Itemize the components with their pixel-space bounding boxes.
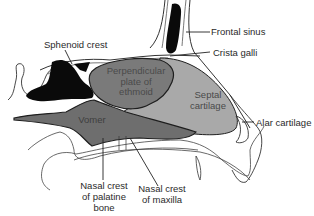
nasal-crest-maxilla-line2: of maxilla xyxy=(134,194,190,205)
alar-cartilage-shape xyxy=(236,116,248,143)
maxilla-curve xyxy=(74,149,250,180)
septal-cartilage-label-line1: Septal xyxy=(178,90,238,101)
nasal-crest-palatine-line1: Nasal crest xyxy=(76,180,132,191)
nasal-crest-maxilla-label: Nasal crest of maxilla xyxy=(134,183,190,205)
septal-cartilage-label-line2: cartilage xyxy=(178,101,238,112)
crista-galli-label: Crista galli xyxy=(213,47,257,58)
perpendicular-plate-label-line1: Perpendicular xyxy=(96,66,176,77)
sphenoid-crest-label: Sphenoid crest xyxy=(44,39,107,50)
perpendicular-plate-label-line3: ethmoid xyxy=(96,87,176,98)
vomer-label: Vomer xyxy=(72,115,112,126)
frontal-sinus-label: Frontal sinus xyxy=(211,26,265,37)
nasal-septum-diagram: Perpendicular plate of ethmoid Septal ca… xyxy=(0,0,314,216)
nasal-crest-maxilla-line1: Nasal crest xyxy=(134,183,190,194)
nostril-shape xyxy=(196,156,201,180)
nasal-crest-palatine-line2: of palatine xyxy=(76,191,132,202)
nasal-crest-palatine-label: Nasal crest of palatine bone xyxy=(76,180,132,213)
septal-cartilage-label: Septal cartilage xyxy=(178,90,238,111)
sphenoid-sinus-cavity-small xyxy=(74,62,90,72)
nasal-crest-palatine-line3: bone xyxy=(76,202,132,213)
frontal-sinus-cavity xyxy=(166,3,181,53)
perpendicular-plate-label: Perpendicular plate of ethmoid xyxy=(96,66,176,98)
alar-cartilage-label: Alar cartilage xyxy=(256,117,311,128)
leader-nasal-crest-maxilla xyxy=(130,138,158,186)
